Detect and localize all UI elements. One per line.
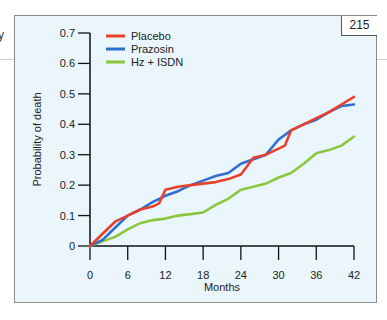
y-axis-label: Probability of death (31, 92, 43, 186)
y-tick-label: 0 (69, 240, 75, 252)
y-tick-label: 0.7 (60, 27, 75, 39)
y-tick-label: 0.1 (60, 210, 75, 222)
series-line (90, 97, 354, 246)
y-tick-label: 0.3 (60, 149, 75, 161)
x-tick-label: 12 (159, 269, 171, 281)
legend-label: Hz + ISDN (131, 56, 183, 68)
x-tick-label: 30 (272, 269, 284, 281)
y-tick-label: 0.4 (60, 118, 75, 130)
x-tick-label: 24 (235, 269, 247, 281)
x-axis-label: Months (204, 281, 241, 293)
x-tick-label: 6 (125, 269, 131, 281)
series-line (90, 137, 354, 247)
data-lines (90, 97, 354, 246)
series-line (90, 105, 354, 247)
y-tick-label: 0.5 (60, 88, 75, 100)
x-tick-label: 42 (348, 269, 360, 281)
x-tick-label: 36 (310, 269, 322, 281)
legend-label: Placebo (131, 30, 171, 42)
axes: 00.10.20.30.40.50.60.706121824303642Mont… (31, 27, 360, 293)
y-tick-label: 0.6 (60, 57, 75, 69)
x-tick-label: 18 (197, 269, 209, 281)
x-tick-label: 0 (87, 269, 93, 281)
y-tick-label: 0.2 (60, 179, 75, 191)
legend: PlaceboPrazosinHz + ISDN (106, 30, 183, 68)
chart-canvas: 00.10.20.30.40.50.60.706121824303642Mont… (0, 0, 387, 320)
legend-label: Prazosin (131, 43, 174, 55)
